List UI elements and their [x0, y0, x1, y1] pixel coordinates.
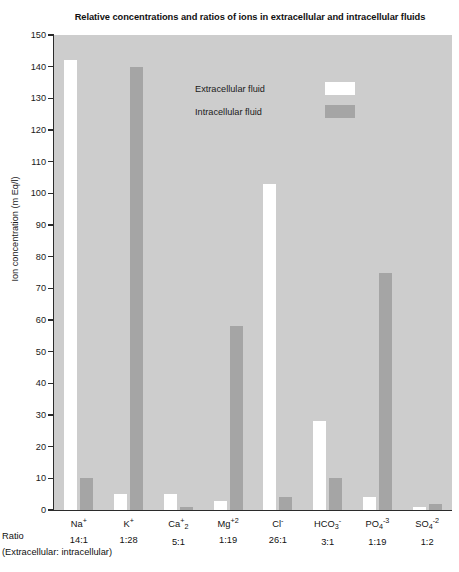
bar	[64, 60, 77, 510]
chart-legend: Extracellular fluidIntracellular fluid	[195, 82, 355, 128]
bar	[263, 184, 276, 510]
x-axis-group: SO4-21:2	[397, 514, 457, 549]
bar	[130, 67, 143, 510]
bar	[363, 497, 376, 510]
y-axis-tick-label: 10	[2, 473, 46, 483]
y-axis-tick-label: 80	[2, 252, 46, 262]
bar	[114, 494, 127, 510]
chart-title: Relative concentrations and ratios of io…	[48, 12, 452, 23]
y-axis-tick-label: 110	[2, 157, 46, 167]
ratio-caption: (Extracellular: intracellular)	[2, 546, 112, 559]
bar	[379, 273, 392, 511]
legend-item-label: Extracellular fluid	[195, 84, 313, 94]
bar	[413, 507, 426, 510]
bar	[329, 478, 342, 510]
y-axis-tick-label: 120	[2, 125, 46, 135]
bar	[429, 504, 442, 510]
chart-figure: Relative concentrations and ratios of io…	[0, 0, 459, 572]
y-axis-tick-label: 130	[2, 93, 46, 103]
bar	[80, 478, 93, 510]
y-axis-tick-label: 40	[2, 378, 46, 388]
legend-item-label: Intracellular fluid	[195, 107, 313, 117]
legend-item: Extracellular fluid	[195, 82, 355, 95]
bar	[230, 326, 243, 510]
legend-item: Intracellular fluid	[195, 105, 355, 118]
x-axis-ion-label: SO4-2	[397, 514, 457, 533]
y-axis-tick-label: 150	[2, 30, 46, 40]
bar	[164, 494, 177, 510]
bar	[279, 497, 292, 510]
y-axis-tick-label: 90	[2, 220, 46, 230]
legend-swatch	[325, 82, 355, 95]
bar	[313, 421, 326, 510]
y-axis-tick-label: 30	[2, 410, 46, 420]
ratio-row-label: Ratio	[2, 530, 24, 543]
y-axis-tick-label: 0	[2, 505, 46, 515]
y-axis-tick-label: 140	[2, 62, 46, 72]
y-axis-title: Ion concentration (m Eq/l)	[10, 119, 20, 339]
y-axis-tick-label: 50	[2, 347, 46, 357]
x-axis-ratio-value: 1:2	[397, 536, 457, 549]
bar	[214, 501, 227, 511]
y-axis-tick-label: 20	[2, 442, 46, 452]
y-axis-tick-label: 70	[2, 283, 46, 293]
y-axis-tick-label: 60	[2, 315, 46, 325]
bar	[180, 507, 193, 510]
legend-swatch	[325, 105, 355, 118]
y-axis-tick-label: 100	[2, 188, 46, 198]
